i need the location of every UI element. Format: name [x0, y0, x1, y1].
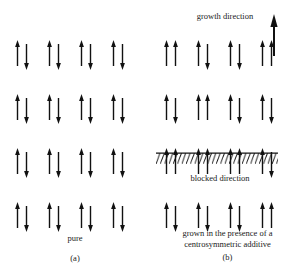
arrow-down-icon	[87, 97, 94, 124]
dipole-pair-up-down	[110, 148, 127, 175]
arrow-up-icon	[110, 202, 117, 229]
arrow-up-icon	[14, 94, 21, 121]
dipole-pair-up-down	[227, 94, 244, 121]
arrow-down-icon	[119, 205, 126, 232]
panel-b-caption-tag: (b)	[165, 252, 290, 263]
dipole-pair-up-up	[259, 40, 276, 67]
dipole-pair-up-down	[110, 94, 127, 121]
dipole-pair-up-down	[163, 202, 180, 229]
arrow-up-icon	[268, 202, 275, 229]
panel-b-caption-text: grown in the presence of a centrosymmetr…	[165, 228, 290, 249]
arrow-up-icon	[195, 94, 202, 121]
arrow-down-icon	[23, 151, 30, 178]
arrow-down-icon	[119, 43, 126, 70]
arrow-up-icon	[259, 94, 266, 121]
dipole-pair-up-down	[14, 202, 31, 229]
arrow-up-icon	[195, 202, 202, 229]
arrow-down-icon	[204, 43, 211, 70]
arrow-down-icon	[172, 97, 179, 124]
dipole-pair-up-down	[14, 94, 31, 121]
dipole-pair-up-up	[163, 40, 180, 67]
dipole-pair-up-down	[46, 202, 63, 229]
arrow-up-icon	[195, 40, 202, 67]
dipole-pair-up-down	[46, 94, 63, 121]
arrow-up-icon	[78, 202, 85, 229]
arrow-up-icon	[46, 202, 53, 229]
arrow-up-icon	[259, 40, 266, 67]
arrow-down-icon	[23, 43, 30, 70]
dipole-pair-up-down	[195, 40, 212, 67]
dipole-pair-up-down	[110, 40, 127, 67]
blocked-direction-label: blocked direction	[180, 173, 260, 184]
arrow-down-icon	[55, 151, 62, 178]
panel-a-caption-tag: (a)	[30, 253, 120, 264]
arrow-down-icon	[119, 97, 126, 124]
arrow-up-icon	[46, 148, 53, 175]
dipole-pair-up-down	[259, 94, 276, 121]
arrow-up-icon	[227, 40, 234, 67]
arrow-down-icon	[23, 205, 30, 232]
arrow-down-icon	[87, 205, 94, 232]
arrow-up-icon	[78, 148, 85, 175]
arrow-up-icon	[268, 40, 275, 67]
arrow-up-icon	[110, 148, 117, 175]
arrow-up-icon	[204, 94, 211, 121]
dipole-pair-up-down	[227, 40, 244, 67]
dipole-pair-up-down	[14, 148, 31, 175]
dipole-pair-up-down	[46, 148, 63, 175]
dipole-pair-up-down	[78, 148, 95, 175]
arrow-up-icon	[46, 94, 53, 121]
arrow-up-icon	[110, 94, 117, 121]
dipole-pair-up-down	[46, 40, 63, 67]
dipole-pair-up-down	[195, 202, 212, 229]
arrow-up-icon	[163, 94, 170, 121]
arrow-up-icon	[46, 40, 53, 67]
dipole-pair-up-down	[78, 40, 95, 67]
arrow-down-icon	[87, 151, 94, 178]
arrow-up-icon	[172, 40, 179, 67]
dipole-pair-up-down	[227, 202, 244, 229]
arrow-down-icon	[119, 151, 126, 178]
arrow-up-icon	[78, 94, 85, 121]
arrow-down-icon	[55, 205, 62, 232]
dipole-pair-up-down	[14, 40, 31, 67]
arrow-up-icon	[163, 202, 170, 229]
figure-canvas: growth direction blocked direction pure …	[0, 0, 300, 280]
arrow-up-icon	[163, 40, 170, 67]
arrow-up-icon	[14, 202, 21, 229]
arrow-down-icon	[87, 43, 94, 70]
arrow-up-icon	[14, 148, 21, 175]
arrow-up-icon	[110, 40, 117, 67]
arrow-down-icon	[55, 43, 62, 70]
arrow-up-icon	[227, 94, 234, 121]
arrow-down-icon	[236, 97, 243, 124]
arrow-down-icon	[55, 97, 62, 124]
dipole-pair-up-up	[259, 202, 276, 229]
hatched-barrier-icon	[156, 152, 278, 166]
arrow-up-icon	[14, 40, 21, 67]
arrow-down-icon	[236, 43, 243, 70]
growth-direction-label: growth direction	[183, 11, 267, 22]
dipole-pair-up-up	[195, 94, 212, 121]
panel-a-caption-text: pure	[30, 233, 120, 244]
arrow-up-icon	[227, 202, 234, 229]
arrow-down-icon	[23, 97, 30, 124]
dipole-pair-up-down	[163, 94, 180, 121]
arrow-down-icon	[268, 97, 275, 124]
arrow-up-icon	[78, 40, 85, 67]
arrow-up-icon	[259, 202, 266, 229]
dipole-pair-up-down	[78, 202, 95, 229]
dipole-pair-up-down	[78, 94, 95, 121]
dipole-pair-up-down	[110, 202, 127, 229]
